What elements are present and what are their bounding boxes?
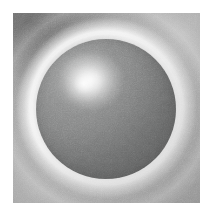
photo-plate: [13, 13, 200, 203]
figure-frame: Grayscale micrograph of a spherical part…: [0, 0, 213, 215]
edge-vignette: [13, 13, 200, 203]
